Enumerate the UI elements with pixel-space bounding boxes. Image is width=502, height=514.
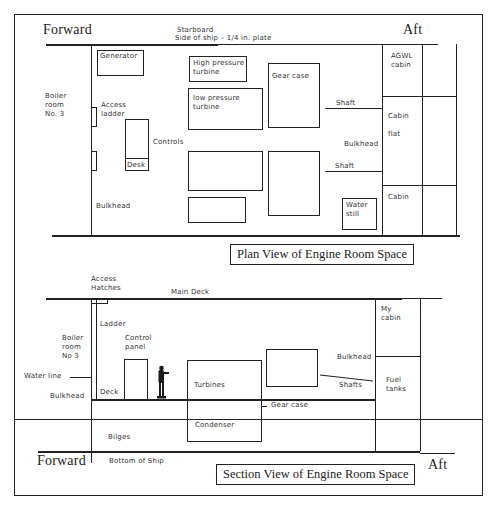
fuel-tanks-label: Fuel tanks [386,376,406,394]
bilges-label: Bilges [108,433,130,442]
section-bulkhead-right-label: Bulkhead [337,353,371,362]
turbines-label: Turbines [194,381,225,390]
my-cabin-label: My cabin [381,305,401,323]
bottom-of-ship-line-aft [420,453,455,454]
gear-case-label: Gear case [271,401,308,410]
aft-compartment-wall [420,298,421,451]
bottom-of-ship-line [38,451,420,453]
section-aft-label: Aft [428,460,447,469]
shafts-label: Shafts [339,381,362,390]
section-view-title: Section View of Engine Room Space [216,464,415,485]
section-forward-label: Forward [37,456,86,465]
gear-case-pointer [262,406,267,407]
cabin-fuel-divider [375,356,420,357]
bilge-deck-line [14,419,483,420]
condenser-label: Condenser [195,421,234,430]
bottom-of-ship-label: Bottom of Ship [109,457,164,466]
gear-case-box [266,349,318,387]
aft-bulkhead-section [375,298,376,451]
